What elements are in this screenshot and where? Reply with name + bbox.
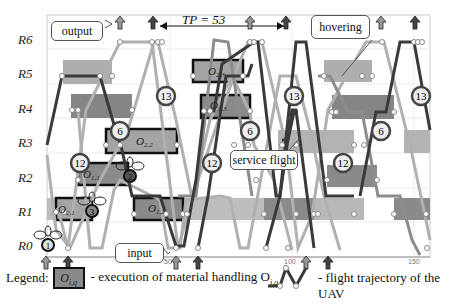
- legend-operation-text: - execution of material handling Oi,q: [91, 269, 279, 287]
- badge-12: 12: [203, 154, 221, 172]
- svg-text:1: 1: [46, 241, 51, 251]
- legend-prefix: Legend:: [6, 270, 49, 286]
- diagram-canvas: 13 13 13 6 6 6 12 12 12 O2,1 O1,1 O2,2 O…: [0, 0, 458, 305]
- x-tick-100: 100: [284, 258, 296, 265]
- svg-text:3: 3: [90, 207, 95, 217]
- row-label-r5: R5: [18, 66, 32, 82]
- row-label-r2: R2: [18, 170, 32, 186]
- row-label-r6: R6: [18, 32, 32, 48]
- badge-12: 12: [334, 154, 352, 172]
- output-callout: output: [51, 21, 103, 41]
- x-tick-150: 150: [408, 258, 420, 265]
- tp-period-label: TP = 53: [182, 12, 225, 28]
- svg-text:12: 12: [207, 157, 218, 169]
- svg-text:13: 13: [416, 90, 428, 102]
- svg-text:2: 2: [128, 172, 133, 182]
- legend-operation-swatch: Oi,q: [53, 267, 85, 289]
- uav-schedule-diagram: 13 13 13 6 6 6 12 12 12 O2,1 O1,1 O2,2 O…: [0, 0, 458, 305]
- svg-text:6: 6: [247, 125, 253, 137]
- legend-trajectory-text: - flight trajectory of the UAV: [318, 270, 458, 302]
- input-callout: input: [115, 243, 164, 263]
- svg-text:13: 13: [161, 90, 173, 102]
- legend: Legend: Oi,q - execution of material han…: [6, 266, 278, 290]
- input-arrow-icon: [323, 256, 333, 269]
- row-label-r4: R4: [18, 101, 32, 117]
- hovering-callout: hovering: [311, 15, 370, 39]
- badge-13: 13: [285, 87, 303, 105]
- row-label-r1: R1: [18, 204, 32, 220]
- row-label-r0: R0: [18, 238, 32, 254]
- svg-text:12: 12: [338, 157, 349, 169]
- badge-6: 6: [241, 122, 259, 140]
- service-flight-callout: service flight: [230, 150, 298, 170]
- badge-13: 13: [157, 87, 175, 105]
- badge-6: 6: [111, 122, 129, 140]
- row-label-r3: R3: [18, 135, 32, 151]
- svg-text:6: 6: [117, 125, 123, 137]
- input-arrow-icon: [301, 256, 311, 269]
- badge-13: 13: [412, 87, 430, 105]
- svg-text:6: 6: [378, 125, 384, 137]
- x-tick-50: 50: [164, 258, 172, 265]
- svg-text:13: 13: [289, 90, 301, 102]
- badge-6: 6: [372, 122, 390, 140]
